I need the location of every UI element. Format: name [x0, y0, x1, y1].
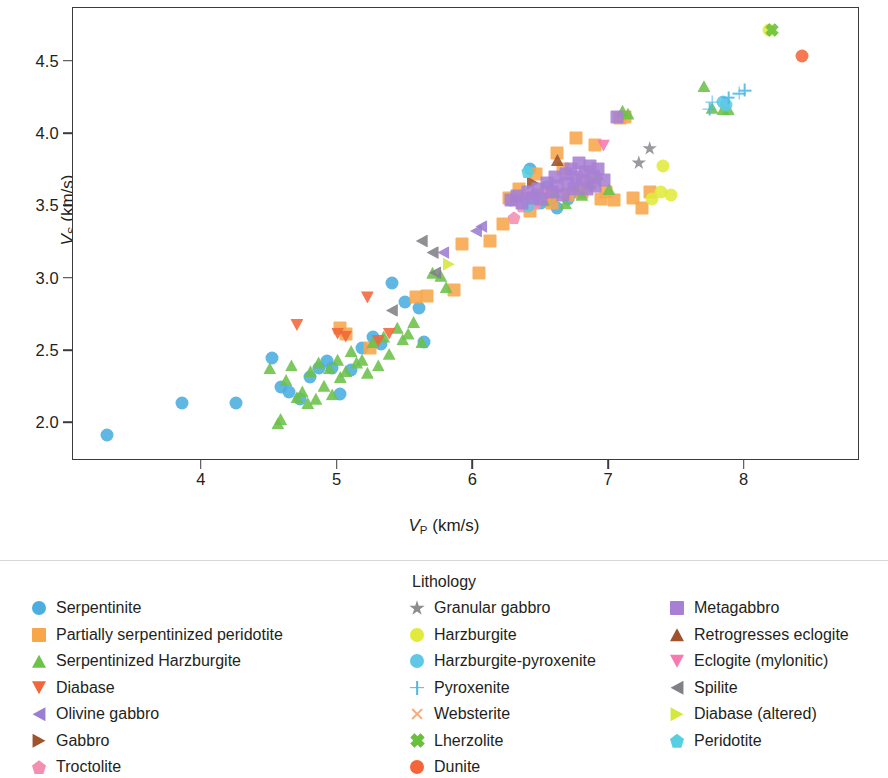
legend-item[interactable]: Diabase (altered) [660, 701, 888, 728]
legend-column-2: Granular gabbroHarzburgiteHarzburgite-py… [400, 595, 650, 778]
legend-item[interactable]: Olivine gabbro [22, 701, 422, 728]
data-point [421, 290, 434, 303]
data-point [611, 110, 624, 123]
legend-item[interactable]: Serpentinized Harzburgite [22, 648, 422, 675]
legend-item[interactable]: Serpentinite [22, 595, 422, 622]
data-point [551, 153, 564, 166]
data-point [280, 373, 293, 386]
legend-item-label: Peridotite [694, 732, 762, 750]
data-point [385, 304, 398, 317]
data-point [372, 359, 385, 372]
data-point [597, 174, 610, 187]
legend-item-label: Pyroxenite [434, 679, 510, 697]
legend-item-label: Dunite [434, 758, 480, 776]
legend-item[interactable]: Diabase [22, 675, 422, 702]
data-point [795, 49, 808, 62]
x-tick-mark [607, 460, 609, 469]
eclogite-mylonitic-marker-icon [660, 654, 694, 668]
data-point [765, 23, 779, 37]
legend-item-label: Granular gabbro [434, 599, 551, 617]
data-point [738, 84, 751, 97]
data-point [383, 327, 396, 340]
serpentinite-marker-icon [22, 601, 56, 615]
x-tick-mark [336, 460, 338, 469]
data-point [642, 141, 657, 156]
data-point [175, 397, 188, 410]
data-point [597, 139, 610, 152]
legend-item-label: Partially serpentinized peridotite [56, 626, 283, 644]
legend-item-label: Serpentinized Harzburgite [56, 652, 241, 670]
legend-item[interactable]: Dunite [400, 754, 650, 778]
data-point [521, 165, 534, 178]
x-tick-label: 8 [739, 470, 748, 489]
legend-item[interactable]: Eclogite (mylonitic) [660, 648, 888, 675]
data-point [229, 397, 242, 410]
troctolite-marker-icon [22, 760, 56, 774]
legend-item[interactable]: Metagabbro [660, 595, 888, 622]
legend-item[interactable]: Pyroxenite [400, 675, 650, 702]
legend-item[interactable]: Granular gabbro [400, 595, 650, 622]
legend-item-label: Lherzolite [434, 732, 503, 750]
legend-title: Lithology [412, 573, 476, 591]
legend-item[interactable]: Harzburgite-pyroxenite [400, 648, 650, 675]
gabbro-marker-icon [22, 734, 56, 748]
olivine-gabbro-marker-icon [22, 707, 56, 721]
data-point [415, 336, 428, 349]
y-tick-label: 4.5 [0, 51, 72, 70]
legend: Lithology SerpentinitePartially serpenti… [0, 560, 888, 778]
legend-item[interactable]: Lherzolite [400, 728, 650, 755]
legend-item[interactable]: Websterite [400, 701, 650, 728]
x-tick-label: 7 [603, 470, 612, 489]
data-point [402, 327, 415, 340]
legend-item[interactable]: Retrogresses eclogite [660, 622, 888, 649]
data-point [706, 96, 719, 109]
websterite-marker-icon [400, 707, 434, 721]
y-tick-label: 2.5 [0, 341, 72, 360]
legend-item[interactable]: Peridotite [660, 728, 888, 755]
scatter-chart: 2.02.53.03.54.04.5 45678 VS (km/s) VP (k… [0, 0, 888, 560]
legend-item-label: Retrogresses eclogite [694, 626, 849, 644]
figure-root: 2.02.53.03.54.04.5 45678 VS (km/s) VP (k… [0, 0, 888, 778]
data-point [665, 188, 678, 201]
data-point [722, 91, 735, 104]
data-point [483, 235, 496, 248]
legend-item-label: Gabbro [56, 732, 109, 750]
legend-item[interactable]: Harzburgite [400, 622, 650, 649]
legend-item-label: Diabase (altered) [694, 705, 817, 723]
data-point [440, 281, 453, 294]
x-tick-mark [471, 460, 473, 469]
legend-item-label: Olivine gabbro [56, 705, 159, 723]
data-point [456, 237, 469, 250]
legend-item-label: Diabase [56, 679, 115, 697]
x-tick-label: 5 [332, 470, 341, 489]
data-point [309, 392, 322, 405]
data-point [697, 80, 710, 93]
pyroxenite-marker-icon [400, 681, 434, 695]
legend-item[interactable]: Spilite [660, 675, 888, 702]
x-tick-mark [743, 460, 745, 469]
peridotite-marker-icon [660, 734, 694, 748]
legend-item[interactable]: Gabbro [22, 728, 422, 755]
legend-column-1: SerpentinitePartially serpentinized peri… [22, 595, 422, 778]
data-point [426, 246, 439, 259]
data-point [475, 220, 488, 233]
x-tick-label: 4 [196, 470, 205, 489]
harzburgite-marker-icon [400, 628, 434, 642]
x-axis-label: VP (km/s) [0, 516, 888, 536]
data-point [570, 132, 583, 145]
data-point [631, 155, 646, 170]
x-axis-label-unit: (km/s) [428, 516, 480, 535]
legend-item-label: Troctolite [56, 758, 121, 776]
granular-gabbro-marker-icon [400, 600, 434, 616]
y-tick-label: 2.0 [0, 413, 72, 432]
data-point [263, 362, 276, 375]
legend-item[interactable]: Troctolite [22, 754, 422, 778]
legend-item[interactable]: Partially serpentinized peridotite [22, 622, 422, 649]
data-point [100, 428, 113, 441]
metagabbro-marker-icon [660, 601, 694, 615]
data-point [339, 330, 352, 343]
data-point [429, 266, 442, 279]
data-point [407, 316, 420, 329]
data-point [608, 194, 621, 207]
data-point [472, 266, 485, 279]
